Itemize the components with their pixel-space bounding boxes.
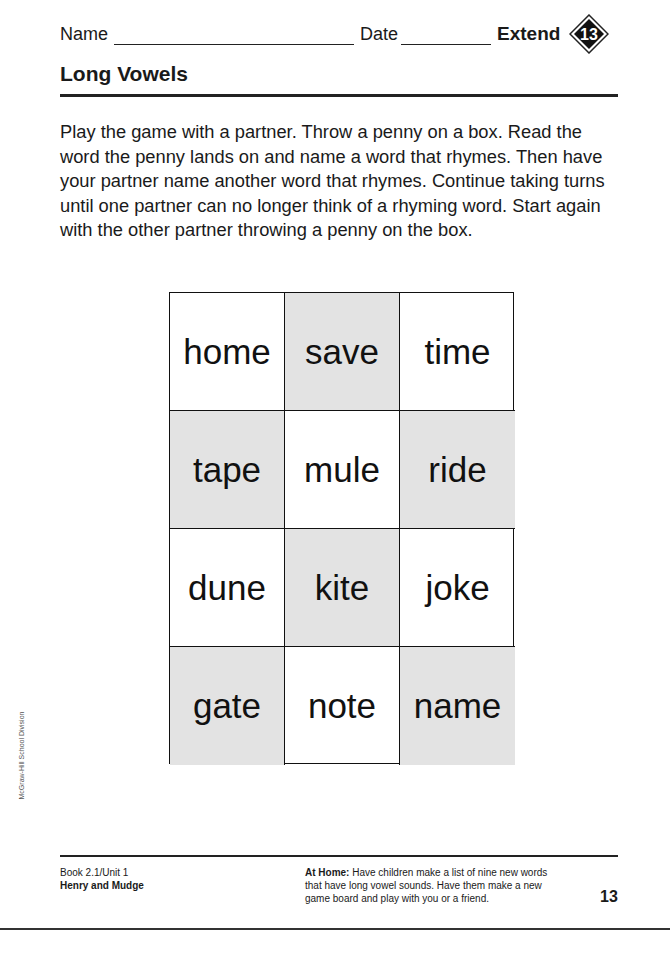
footer-divider bbox=[60, 855, 618, 857]
page-number: 13 bbox=[600, 888, 618, 906]
board-cell-dune[interactable]: dune bbox=[170, 529, 285, 647]
at-home-label: At Home: bbox=[305, 867, 349, 878]
svg-text:13: 13 bbox=[580, 26, 598, 43]
board-cell-name[interactable]: name bbox=[400, 647, 515, 765]
page-edge-rule bbox=[0, 928, 670, 930]
book-unit: Book 2.1/Unit 1 bbox=[60, 866, 144, 879]
footer-book-info: Book 2.1/Unit 1 Henry and Mudge bbox=[60, 866, 144, 892]
board-cell-joke[interactable]: joke bbox=[400, 529, 515, 647]
name-label: Name bbox=[60, 24, 108, 45]
publisher-credit: McGraw-Hill School Division bbox=[18, 701, 25, 811]
board-cell-gate[interactable]: gate bbox=[170, 647, 285, 765]
diamond-badge-icon: 13 bbox=[569, 14, 609, 54]
extend-label: Extend bbox=[497, 23, 560, 45]
board-cell-note[interactable]: note bbox=[285, 647, 400, 765]
instructions-text: Play the game with a partner. Throw a pe… bbox=[60, 120, 620, 243]
board-cell-ride[interactable]: ride bbox=[400, 411, 515, 529]
date-field-line[interactable] bbox=[401, 44, 491, 45]
date-label: Date bbox=[360, 24, 398, 45]
page-title: Long Vowels bbox=[60, 62, 188, 86]
board-cell-tape[interactable]: tape bbox=[170, 411, 285, 529]
board-cell-time[interactable]: time bbox=[400, 293, 515, 411]
game-board: homesavetimetapemuleridedunekitejokegate… bbox=[169, 292, 514, 764]
title-divider bbox=[60, 94, 618, 97]
board-cell-save[interactable]: save bbox=[285, 293, 400, 411]
board-cell-home[interactable]: home bbox=[170, 293, 285, 411]
story-title: Henry and Mudge bbox=[60, 879, 144, 892]
at-home-note: At Home: Have children make a list of ni… bbox=[305, 866, 555, 905]
board-cell-kite[interactable]: kite bbox=[285, 529, 400, 647]
name-field-line[interactable] bbox=[114, 44, 354, 45]
board-cell-mule[interactable]: mule bbox=[285, 411, 400, 529]
worksheet-header: Name Date Extend 13 bbox=[60, 20, 620, 50]
